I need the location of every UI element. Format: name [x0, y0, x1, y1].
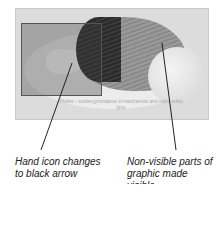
callout-line1: Hand icon changes	[15, 156, 101, 168]
callout-non-visible: Non-visible parts of graphic made visibl…	[127, 156, 217, 184]
leader-line-left	[41, 63, 72, 150]
callout-line2: to black arrow	[15, 168, 101, 180]
leader-line-right	[162, 43, 176, 150]
callout-line1: Non-visible parts of	[127, 156, 217, 168]
callout-line2: graphic made visible	[127, 168, 217, 184]
callout-hand-icon: Hand icon changes to black arrow	[15, 156, 101, 180]
